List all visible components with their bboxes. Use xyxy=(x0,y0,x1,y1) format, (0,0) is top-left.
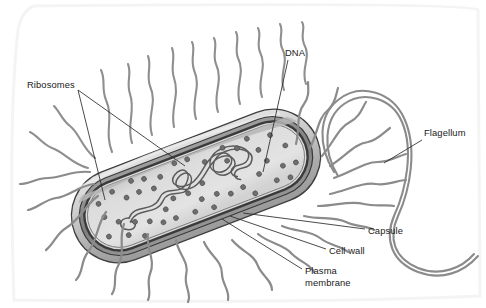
label-capsule: Capsule xyxy=(368,225,403,237)
label-ribosomes: Ribosomes xyxy=(27,79,75,91)
label-cell-wall: Cell wall xyxy=(329,245,365,257)
bacterium-cell-body xyxy=(58,96,334,277)
label-dna: DNA xyxy=(285,47,305,59)
bacterium-diagram xyxy=(0,0,486,308)
label-flagellum: Flagellum xyxy=(424,127,466,139)
leader-line-plasma-membrane xyxy=(222,219,302,269)
figure-canvas: Ribosomes DNA Flagellum Capsule Cell wal… xyxy=(0,0,486,308)
leader-line-flagellum xyxy=(384,140,422,163)
label-plasma-membrane: Plasma membrane xyxy=(305,265,351,288)
